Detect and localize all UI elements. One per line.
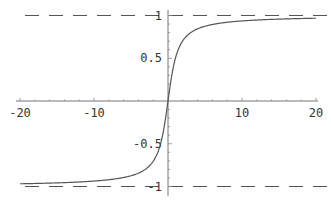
x-tick-label: -20: [9, 106, 31, 120]
y-tick-label: 1: [155, 9, 162, 23]
y-tick-label: -1: [148, 180, 162, 194]
axes: [16, 10, 318, 196]
y-tick-label: -0.5: [133, 137, 162, 151]
y-tick-label: 0.5: [140, 51, 162, 65]
x-tick-label: -10: [83, 106, 105, 120]
arctan-plot: -20-10102010.5-0.5-1: [0, 0, 331, 206]
x-tick-label: 20: [309, 106, 323, 120]
x-tick-label: 10: [235, 106, 249, 120]
